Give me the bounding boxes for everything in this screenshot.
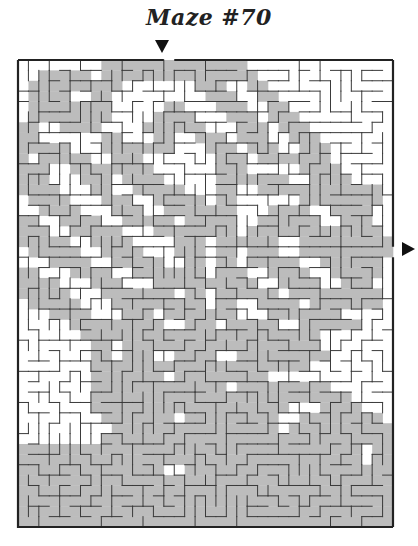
maze-grid: [18, 60, 393, 527]
maze-board[interactable]: [18, 60, 393, 527]
maze-title: Maze #70: [0, 4, 418, 30]
arrow-right-icon: [402, 242, 415, 256]
arrow-down-icon: [155, 40, 169, 53]
